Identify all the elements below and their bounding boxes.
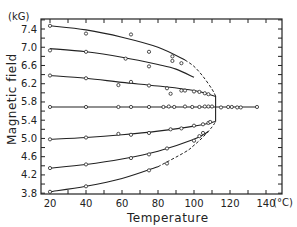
data-point-marker bbox=[201, 131, 204, 134]
data-point-marker bbox=[230, 105, 233, 108]
data-point-marker bbox=[48, 74, 51, 77]
data-point-marker bbox=[207, 93, 210, 96]
x-tick-label: 60 bbox=[116, 198, 129, 209]
data-point-marker bbox=[255, 105, 258, 108]
data-point-marker bbox=[129, 156, 132, 159]
y-unit-label: (kG) bbox=[8, 11, 29, 22]
x-unit-label: (°C) bbox=[273, 197, 293, 208]
fit-curve-dashed bbox=[158, 122, 216, 167]
data-point-marker bbox=[124, 57, 127, 60]
data-point-marker bbox=[201, 123, 204, 126]
y-tick-label: 6.6 bbox=[21, 60, 37, 71]
magnetic-field-vs-temperature-chart: 20406080100120140 3.84.24.65.05.45.86.26… bbox=[0, 0, 297, 227]
data-point-marker bbox=[239, 106, 242, 109]
data-point-marker bbox=[147, 50, 150, 53]
x-tick-label: 20 bbox=[44, 198, 57, 209]
data-point-marker bbox=[210, 105, 213, 108]
data-point-marker bbox=[162, 105, 165, 108]
x-tick-label: 100 bbox=[184, 198, 203, 209]
data-point-marker bbox=[198, 90, 201, 93]
data-point-marker bbox=[209, 120, 212, 123]
data-point-marker bbox=[207, 105, 210, 108]
x-tick-label: 40 bbox=[80, 198, 93, 209]
data-point-marker bbox=[129, 33, 132, 36]
y-tick-label: 3.8 bbox=[21, 188, 37, 199]
data-point-marker bbox=[129, 105, 132, 108]
data-point-marker bbox=[129, 133, 132, 136]
data-point-marker bbox=[147, 169, 150, 172]
data-point-marker bbox=[147, 84, 150, 87]
data-point-marker bbox=[147, 105, 150, 108]
data-point-marker bbox=[84, 50, 87, 53]
data-point-marker bbox=[227, 105, 230, 108]
data-point-marker bbox=[84, 185, 87, 188]
fit-curve bbox=[50, 26, 185, 60]
data-point-marker bbox=[236, 106, 239, 109]
data-point-marker bbox=[147, 65, 150, 68]
y-tick-label: 4.2 bbox=[21, 169, 37, 180]
x-axis-title: Temperature bbox=[126, 211, 209, 225]
y-tick-label: 4.6 bbox=[21, 151, 37, 162]
data-point-marker bbox=[84, 163, 87, 166]
data-point-marker bbox=[180, 127, 183, 130]
fit-curve bbox=[50, 132, 208, 168]
data-point-marker bbox=[192, 124, 195, 127]
data-point-marker bbox=[191, 105, 194, 108]
x-tick-labels: 20406080100120140 bbox=[44, 198, 276, 209]
data-point-marker bbox=[84, 77, 87, 80]
data-point-marker bbox=[198, 105, 201, 108]
data-point-marker bbox=[219, 106, 222, 109]
data-point-marker bbox=[165, 147, 168, 150]
y-tick-label: 5.4 bbox=[21, 115, 37, 126]
data-point-marker bbox=[48, 49, 51, 52]
data-point-marker bbox=[129, 80, 132, 83]
data-point-marker bbox=[173, 105, 176, 108]
data-point-marker bbox=[48, 166, 51, 169]
data-point-marker bbox=[171, 59, 174, 62]
y-tick-label: 6.2 bbox=[21, 78, 37, 89]
data-point-marker bbox=[167, 105, 170, 108]
fit-curve bbox=[50, 76, 216, 97]
data-point-marker bbox=[169, 92, 172, 95]
y-tick-label: 7.4 bbox=[21, 24, 37, 35]
y-tick-label: 5.8 bbox=[21, 96, 37, 107]
y-tick-labels: 3.84.24.65.05.45.86.26.67.07.4 bbox=[21, 24, 37, 199]
x-tick-label: 80 bbox=[152, 198, 165, 209]
data-point-marker bbox=[48, 105, 51, 108]
data-point-marker bbox=[84, 32, 87, 35]
fit-curves bbox=[50, 26, 257, 192]
data-point-marker bbox=[48, 24, 51, 27]
data-point-marker bbox=[147, 131, 150, 134]
data-point-marker bbox=[48, 190, 51, 193]
data-point-marker bbox=[147, 153, 150, 156]
y-axis-title: Magnetic field bbox=[5, 53, 19, 145]
data-point-marker bbox=[192, 139, 195, 142]
data-point-marker bbox=[180, 62, 183, 65]
x-tick-label: 120 bbox=[220, 198, 239, 209]
y-tick-label: 5.0 bbox=[21, 133, 37, 144]
data-point-marker bbox=[203, 105, 206, 108]
data-point-marker bbox=[192, 90, 195, 93]
fit-curve bbox=[50, 122, 216, 140]
data-point-marker bbox=[117, 83, 120, 86]
fit-curve bbox=[50, 49, 194, 78]
data-point-marker bbox=[169, 128, 172, 131]
data-point-marker bbox=[48, 138, 51, 141]
data-point-marker bbox=[183, 105, 186, 108]
data-point-marker bbox=[171, 55, 174, 58]
data-point-marker bbox=[117, 132, 120, 135]
data-point-marker bbox=[203, 92, 206, 95]
y-tick-label: 7.0 bbox=[21, 42, 37, 53]
data-point-marker bbox=[84, 105, 87, 108]
data-point-marker bbox=[165, 162, 168, 165]
data-point-marker bbox=[180, 89, 183, 92]
data-point-marker bbox=[117, 105, 120, 108]
data-point-marker bbox=[84, 136, 87, 139]
data-point-marker bbox=[198, 135, 201, 138]
fit-curve bbox=[50, 167, 158, 192]
data-point-marker bbox=[165, 87, 168, 90]
data-point-marker bbox=[183, 89, 186, 92]
